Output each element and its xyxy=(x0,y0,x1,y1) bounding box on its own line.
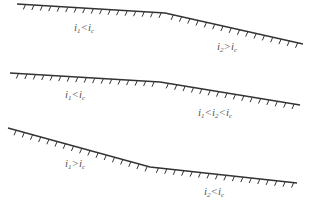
label-profile-2-upstream: i1<ic xyxy=(65,89,85,102)
label-symbol: <i xyxy=(219,106,229,118)
label-subscript: c xyxy=(234,46,237,54)
label-profile-1-upstream: i1<ic xyxy=(74,22,94,35)
label-subscript: c xyxy=(82,163,85,171)
label-profile-1-downstream: i2>ic xyxy=(217,41,237,54)
profile-1-bed-line xyxy=(17,4,303,48)
label-subscript: c xyxy=(221,191,224,199)
label-symbol: >i xyxy=(224,40,234,52)
label-subscript: c xyxy=(82,94,85,102)
label-symbol: <i xyxy=(81,21,91,33)
profile-2-bed-line xyxy=(10,73,300,109)
label-symbol: >i xyxy=(72,157,82,169)
label-subscript: c xyxy=(229,112,232,120)
profile-3-bed-line xyxy=(8,128,297,188)
label-symbol: <i xyxy=(72,88,82,100)
label-profile-3-downstream: i2<ic xyxy=(204,186,224,199)
label-symbol: <i xyxy=(211,185,221,197)
label-symbol: <i xyxy=(205,106,215,118)
label-subscript: c xyxy=(91,27,94,35)
channel-profiles-diagram xyxy=(0,0,311,212)
label-profile-2-downstream: i1<i2<ic xyxy=(198,107,232,120)
label-profile-3-upstream: i1>ic xyxy=(65,158,85,171)
